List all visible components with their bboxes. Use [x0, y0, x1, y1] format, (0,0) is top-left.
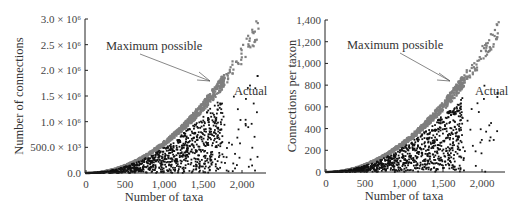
right-x-axis-label: Number of taxa	[365, 189, 444, 203]
left-arrow-icon	[140, 54, 210, 81]
y-tick-label: 400	[305, 123, 322, 135]
left-chart: 05001,0001,5002,0000.0500.0 × 10³1.0 × 1…	[12, 13, 268, 204]
y-tick-label: 500.0 × 10³	[30, 141, 81, 153]
x-tick-label: 1,000	[392, 177, 417, 189]
x-tick-label: 500	[357, 177, 374, 189]
x-tick-label: 2,000	[230, 178, 255, 190]
left-y-axis-label: Number of connections	[12, 37, 26, 154]
x-tick-label: 1,500	[191, 178, 216, 190]
left-annotation-maximum-possible: Maximum possible	[106, 39, 203, 53]
y-tick-label: 1.5 × 10⁶	[41, 90, 81, 102]
y-tick-label: 2.5 × 10⁶	[41, 39, 81, 51]
y-tick-label: 0.0	[67, 167, 81, 179]
y-tick-label: 2.0 × 10⁶	[41, 64, 81, 76]
y-tick-label: 1,200	[296, 36, 321, 48]
x-tick-label: 0	[83, 178, 89, 190]
y-tick-label: 1.0 × 10⁶	[41, 116, 81, 128]
y-tick-label: 200	[305, 144, 322, 156]
y-tick-label: 1,400	[296, 14, 321, 26]
y-tick-label: 600	[305, 101, 322, 113]
x-tick-label: 500	[117, 178, 134, 190]
y-tick-label: 0	[316, 166, 322, 178]
y-tick-label: 800	[305, 79, 322, 91]
x-tick-label: 1,500	[431, 177, 456, 189]
right-arrow-icon	[400, 53, 450, 81]
right-chart: 05001,0001,5002,00002004006008001,0001,2…	[285, 14, 509, 203]
right-annotation-maximum-possible: Maximum possible	[347, 38, 444, 52]
x-tick-label: 2,000	[470, 177, 495, 189]
y-tick-label: 3.0 × 10⁶	[41, 13, 81, 25]
left-annotation-actual: Actual	[234, 84, 268, 98]
right-annotation-actual: Actual	[475, 84, 509, 98]
figure: 05001,0001,5002,0000.0500.0 × 10³1.0 × 1…	[0, 0, 520, 213]
right-y-axis-label: Connections per taxon	[285, 39, 299, 152]
y-tick-label: 1,000	[296, 57, 321, 69]
x-tick-label: 1,000	[152, 178, 177, 190]
left-x-axis-label: Number of taxa	[125, 190, 204, 204]
x-tick-label: 0	[323, 177, 329, 189]
